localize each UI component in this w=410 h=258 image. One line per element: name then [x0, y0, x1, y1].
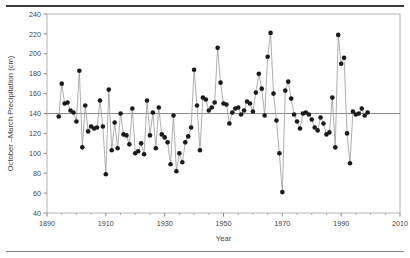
data-point	[212, 100, 217, 105]
figure-container: 406080100120140160180200220240 189019101…	[0, 0, 410, 258]
y-axis-title: October –March Precipitation (cm)	[6, 55, 15, 171]
data-point	[265, 54, 270, 59]
data-point	[198, 148, 203, 153]
data-point	[109, 148, 114, 153]
x-tick-label: 1890	[39, 219, 55, 228]
y-tick-label: 140	[29, 109, 41, 118]
data-point	[327, 130, 332, 135]
data-point	[248, 101, 253, 106]
data-point	[280, 190, 285, 195]
data-point	[268, 31, 273, 36]
data-point	[230, 110, 235, 115]
data-point	[271, 91, 276, 96]
x-tick-label: 1970	[274, 219, 290, 228]
data-point	[106, 87, 111, 92]
y-tick-label: 160	[29, 89, 41, 98]
data-point	[74, 119, 79, 124]
y-axis-ticks: 406080100120140160180200220240	[29, 10, 47, 218]
data-point	[274, 118, 279, 123]
data-point	[330, 95, 335, 100]
data-point	[209, 105, 214, 110]
data-point	[183, 140, 188, 145]
y-tick-label: 240	[29, 10, 41, 19]
top-divider-rule	[6, 5, 404, 7]
data-point	[118, 111, 123, 116]
data-point	[124, 133, 129, 138]
data-point	[139, 141, 144, 146]
data-point	[295, 119, 300, 124]
data-point	[77, 68, 82, 73]
data-point	[307, 112, 312, 117]
data-point	[359, 106, 364, 111]
bottom-divider-rule	[6, 251, 404, 252]
data-point	[127, 142, 132, 147]
data-point	[177, 151, 182, 156]
y-tick-label: 220	[29, 30, 41, 39]
data-point	[289, 96, 294, 101]
data-point	[215, 46, 220, 51]
data-point	[321, 121, 326, 126]
data-point	[365, 110, 370, 115]
data-point	[342, 55, 347, 60]
data-point	[195, 103, 200, 108]
data-point	[242, 108, 247, 113]
x-tick-label: 1990	[333, 219, 349, 228]
y-tick-label: 180	[29, 69, 41, 78]
data-point	[254, 90, 259, 95]
x-tick-label: 1910	[98, 219, 114, 228]
data-point	[156, 105, 161, 110]
data-point	[154, 146, 159, 151]
data-point	[315, 128, 320, 133]
data-point	[345, 131, 350, 136]
data-point	[83, 103, 88, 108]
data-point	[174, 169, 179, 174]
data-point	[257, 71, 262, 76]
series-connector-line	[59, 33, 368, 192]
x-tick-label: 1950	[216, 219, 232, 228]
y-tick-label: 200	[29, 49, 41, 58]
data-point	[130, 106, 135, 111]
data-point	[204, 97, 209, 102]
data-point	[277, 151, 282, 156]
y-tick-label: 100	[29, 149, 41, 158]
data-point	[104, 172, 109, 177]
precipitation-scatter-plot: 406080100120140160180200220240 189019101…	[0, 0, 410, 258]
data-point	[168, 162, 173, 167]
data-point	[98, 98, 103, 103]
series-polyline	[59, 33, 368, 192]
data-point	[148, 133, 153, 138]
data-point	[286, 79, 291, 84]
data-point	[239, 112, 244, 117]
data-point	[339, 61, 344, 66]
y-tick-label: 120	[29, 129, 41, 138]
data-point	[86, 129, 91, 134]
data-point	[101, 124, 106, 129]
data-point	[357, 111, 362, 116]
y-tick-label: 60	[33, 189, 41, 198]
data-point	[145, 98, 150, 103]
data-point	[142, 152, 147, 157]
series-data-points	[56, 31, 369, 195]
data-point	[65, 100, 70, 105]
data-point	[59, 81, 64, 86]
data-point	[189, 125, 194, 130]
x-axis-title: Year	[216, 234, 232, 243]
data-point	[224, 102, 229, 107]
data-point	[262, 113, 267, 118]
data-point	[259, 86, 264, 91]
data-point	[80, 145, 85, 150]
data-point	[333, 145, 338, 150]
data-point	[56, 114, 61, 119]
data-point	[112, 120, 117, 125]
data-point	[151, 110, 156, 115]
data-point	[218, 80, 223, 85]
data-point	[95, 125, 100, 130]
data-point	[348, 161, 353, 166]
data-point	[162, 135, 167, 140]
data-point	[251, 109, 256, 114]
data-point	[236, 105, 241, 110]
data-point	[292, 112, 297, 117]
data-point	[192, 67, 197, 72]
data-point	[283, 88, 288, 93]
data-point	[298, 126, 303, 131]
